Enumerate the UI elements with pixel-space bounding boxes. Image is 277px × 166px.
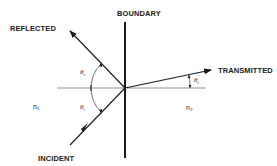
medium2-label: n₂ bbox=[186, 104, 193, 111]
boundary-label: BOUNDARY bbox=[117, 9, 161, 18]
medium1-label: n₁ bbox=[33, 103, 40, 110]
incident-ray bbox=[70, 88, 125, 145]
incident-label: INCIDENT bbox=[38, 154, 75, 163]
theta-i-label: θi bbox=[80, 103, 85, 112]
reflected-ray bbox=[70, 31, 125, 88]
theta-t-label: θt bbox=[194, 76, 199, 85]
transmitted-arc-arrow2-icon bbox=[189, 85, 192, 88]
transmitted-arc-arrow-icon bbox=[188, 75, 191, 78]
incident-angle-arc bbox=[91, 88, 101, 112]
transmitted-label: TRANSMITTED bbox=[218, 66, 273, 75]
refraction-diagram: BOUNDARY REFLECTED TRANSMITTED INCIDENT … bbox=[0, 0, 277, 166]
reflected-label: REFLECTED bbox=[10, 24, 56, 33]
theta-r-label: θr bbox=[80, 68, 85, 77]
reflected-angle-arc bbox=[91, 64, 101, 88]
